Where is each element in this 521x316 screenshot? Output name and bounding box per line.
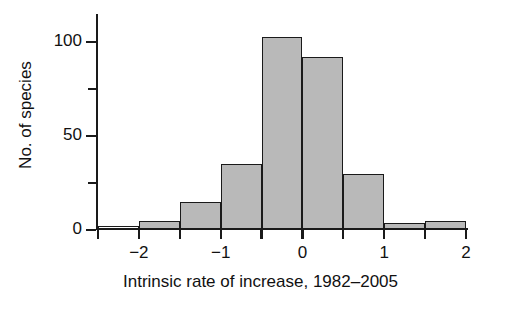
x-axis-tick xyxy=(424,230,426,239)
histogram-bar xyxy=(343,174,384,230)
histogram-bar xyxy=(221,164,262,230)
x-axis-tick-label: −2 xyxy=(129,243,148,263)
y-axis-line xyxy=(96,14,98,230)
x-axis-tick xyxy=(138,230,140,239)
y-axis-tick-label: 100 xyxy=(0,31,82,51)
x-axis-title: Intrinsic rate of increase, 1982–2005 xyxy=(0,272,521,292)
y-axis-tick xyxy=(88,88,96,90)
y-axis-tick xyxy=(86,135,96,137)
x-axis-tick xyxy=(260,230,262,239)
x-axis-tick-label: 1 xyxy=(379,243,388,263)
x-axis-tick xyxy=(301,230,303,239)
y-axis-tick-label: 50 xyxy=(0,125,82,145)
x-axis-tick xyxy=(465,230,467,239)
x-axis-tick xyxy=(97,230,99,239)
x-axis-tick xyxy=(220,230,222,239)
histogram-bar xyxy=(262,37,303,230)
x-axis-tick-label: 0 xyxy=(298,243,307,263)
x-axis-line xyxy=(96,228,468,230)
x-axis-tick xyxy=(179,230,181,239)
y-axis-tick-label: 0 xyxy=(0,219,82,239)
y-axis-tick xyxy=(88,182,96,184)
y-axis-title: No. of species xyxy=(16,15,36,215)
plot-area xyxy=(98,14,466,230)
histogram-bar xyxy=(302,57,343,230)
x-axis-tick xyxy=(342,230,344,239)
x-axis-tick-label: 2 xyxy=(461,243,470,263)
y-axis-tick xyxy=(86,229,96,231)
x-axis-tick-label: −1 xyxy=(211,243,230,263)
histogram-figure: 050100 −2−1012 No. of species Intrinsic … xyxy=(0,0,521,316)
x-axis-tick xyxy=(383,230,385,239)
histogram-bar xyxy=(180,202,221,230)
y-axis-tick xyxy=(86,41,96,43)
bars-layer xyxy=(98,14,466,230)
